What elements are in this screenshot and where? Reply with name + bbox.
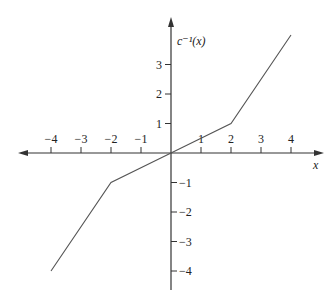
x-tick-label: −4 bbox=[45, 132, 58, 146]
x-tick-label: 2 bbox=[228, 132, 234, 146]
y-tick-label: −1 bbox=[179, 176, 192, 190]
chart: −4−3−2−11234−4−3−2−1123 x c⁻¹(x) bbox=[0, 0, 336, 304]
y-axis-up-arrow-icon bbox=[168, 17, 174, 27]
x-tick-label: 3 bbox=[258, 132, 264, 146]
ticks: −4−3−2−11234−4−3−2−1123 bbox=[45, 58, 294, 279]
x-tick-label: −2 bbox=[105, 132, 118, 146]
y-tick-label: −3 bbox=[179, 235, 192, 249]
y-tick-label: 2 bbox=[156, 87, 162, 101]
x-axis-left-arrow-icon bbox=[18, 150, 28, 156]
x-tick-label: −3 bbox=[75, 132, 88, 146]
x-axis-label: x bbox=[312, 158, 319, 172]
y-tick-label: 3 bbox=[156, 58, 162, 72]
y-tick-label: −2 bbox=[179, 205, 192, 219]
y-tick-label: −4 bbox=[179, 264, 192, 278]
y-axis-label: c⁻¹(x) bbox=[177, 34, 206, 48]
x-tick-label: 4 bbox=[288, 132, 294, 146]
x-axis-right-arrow-icon bbox=[314, 150, 324, 156]
y-tick-label: 1 bbox=[156, 117, 162, 131]
x-tick-label: −1 bbox=[135, 132, 148, 146]
